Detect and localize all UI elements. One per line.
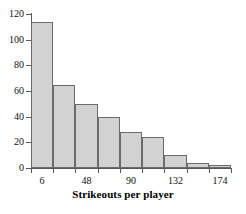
x-axis-tick-label: 48 — [82, 176, 92, 186]
x-axis-tick-label: 90 — [126, 176, 136, 186]
x-axis-tick — [75, 168, 76, 173]
x-axis-tick — [164, 168, 165, 173]
x-axis-line — [31, 168, 232, 169]
x-axis-tick — [98, 168, 99, 173]
histogram-bar — [53, 85, 75, 168]
histogram-bar — [75, 104, 97, 168]
y-axis-tick — [26, 14, 31, 15]
plot-area: 02040608010012064890132174 — [31, 14, 231, 168]
y-axis-tick-label: 60 — [14, 86, 24, 96]
histogram-bar — [187, 163, 209, 168]
y-axis-tick-label: 100 — [9, 35, 24, 45]
x-axis-tick — [209, 168, 210, 173]
x-axis-tick — [231, 168, 232, 173]
histogram-figure: 02040608010012064890132174 Strikeouts pe… — [0, 0, 246, 214]
x-axis-tick-label: 132 — [168, 176, 183, 186]
y-axis-tick-label: 40 — [14, 112, 24, 122]
x-axis-tick — [31, 168, 32, 173]
histogram-bar — [98, 117, 120, 168]
x-axis-tick-label: 6 — [40, 176, 45, 186]
histogram-bar — [120, 132, 142, 168]
y-axis-tick-label: 120 — [9, 9, 24, 19]
histogram-bar — [209, 165, 231, 168]
histogram-bar — [142, 137, 164, 168]
x-axis-title: Strikeouts per player — [0, 188, 246, 200]
histogram-bar — [164, 155, 186, 168]
histogram-bar — [31, 22, 53, 168]
x-axis-tick — [142, 168, 143, 173]
y-axis-tick-label: 80 — [14, 60, 24, 70]
x-axis-tick — [187, 168, 188, 173]
x-axis-tick — [53, 168, 54, 173]
y-axis-tick-label: 0 — [19, 163, 24, 173]
y-axis-tick-label: 20 — [14, 137, 24, 147]
x-axis-tick-label: 174 — [212, 176, 227, 186]
x-axis-tick — [120, 168, 121, 173]
